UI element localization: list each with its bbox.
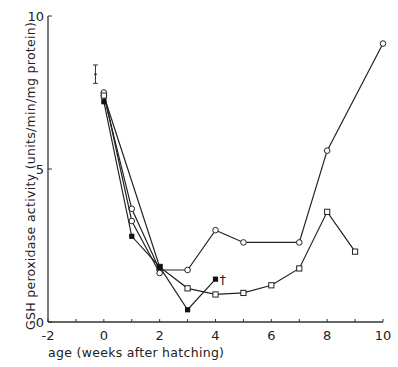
x-tick-label: 10 xyxy=(375,328,392,343)
x-tick-label: 8 xyxy=(323,328,331,343)
y-axis-title: GSH peroxidase activity (units/min/mg pr… xyxy=(23,22,38,330)
square-marker xyxy=(325,209,330,214)
circle-marker xyxy=(213,227,219,233)
square-marker xyxy=(185,286,190,291)
square-marker xyxy=(269,283,274,288)
circle-marker xyxy=(129,218,135,224)
circle-marker xyxy=(380,41,386,47)
dagger-annotation: † xyxy=(220,272,227,287)
square-marker xyxy=(241,290,246,295)
x-axis-title: age (weeks after hatching) xyxy=(48,345,224,360)
circle-marker xyxy=(241,240,247,246)
x-tick-label: 6 xyxy=(267,328,275,343)
square-marker xyxy=(352,249,357,254)
filled-square-marker xyxy=(185,307,190,312)
x-tick-label: 4 xyxy=(211,328,219,343)
filled-square-marker xyxy=(129,234,134,239)
series-line xyxy=(104,44,383,270)
error-bar-mean xyxy=(94,73,96,75)
circle-marker xyxy=(157,270,163,276)
x-tick-label: 0 xyxy=(100,328,108,343)
filled-square-marker xyxy=(101,99,106,104)
circle-marker xyxy=(185,267,191,273)
chart: -202468100510 † age (weeks after hatchin… xyxy=(0,0,398,367)
circle-marker xyxy=(324,148,330,154)
filled-square-marker xyxy=(213,277,218,282)
x-tick-label: -2 xyxy=(42,328,55,343)
square-marker xyxy=(101,93,106,98)
filled-square-marker xyxy=(157,264,162,269)
square-marker xyxy=(213,292,218,297)
series-line xyxy=(104,102,216,310)
square-marker xyxy=(297,266,302,271)
circle-marker xyxy=(296,240,302,246)
series-layer: † xyxy=(93,41,386,313)
series-line xyxy=(104,96,355,295)
x-tick-label: 2 xyxy=(156,328,164,343)
y-tick-label: 10 xyxy=(27,9,44,24)
